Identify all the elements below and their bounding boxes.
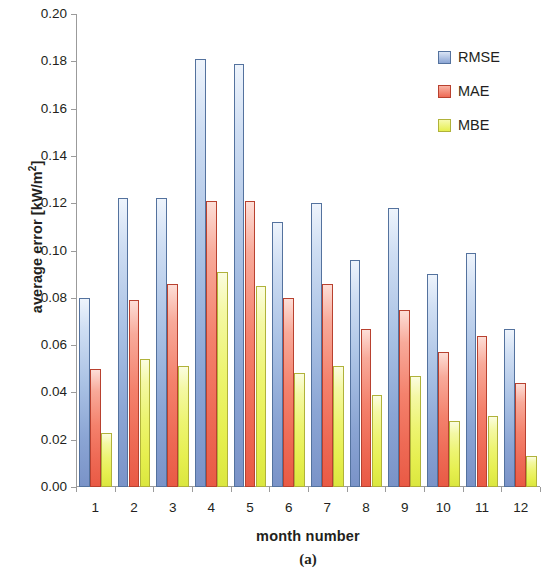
x-axis-title: month number	[76, 528, 540, 544]
legend-swatch-rmse-icon	[438, 51, 451, 64]
bar-mae-month-4	[206, 201, 217, 487]
bar-rmse-month-8	[350, 260, 361, 487]
x-tick-label: 8	[362, 501, 370, 515]
x-tick-mark	[153, 487, 154, 492]
bar-mbe-month-6	[294, 373, 305, 487]
bar-mbe-month-5	[256, 286, 267, 487]
x-tick-mark	[192, 487, 193, 492]
y-tick-label: 0.08	[41, 291, 67, 305]
legend-item-mae: MAE	[438, 74, 500, 108]
legend-swatch-mbe-icon	[438, 119, 451, 132]
bar-mae-month-3	[167, 284, 178, 487]
x-tick-label: 2	[130, 501, 138, 515]
figure-caption: (a)	[76, 551, 540, 568]
bar-mbe-month-11	[488, 416, 499, 487]
bar-mae-month-2	[129, 300, 140, 487]
x-tick-label: 7	[324, 501, 332, 515]
bar-rmse-month-6	[272, 222, 283, 487]
y-tick-mark	[71, 298, 76, 299]
y-tick-label: 0.14	[41, 149, 67, 163]
bar-mbe-month-10	[449, 421, 460, 487]
bar-mae-month-11	[477, 336, 488, 487]
bar-mbe-month-3	[178, 366, 189, 487]
y-tick-label: 0.02	[41, 433, 67, 447]
bar-rmse-month-2	[118, 198, 129, 487]
x-tick-label: 9	[401, 501, 409, 515]
y-axis-title: average error [kW/m2]	[27, 107, 45, 367]
bar-rmse-month-12	[504, 329, 515, 487]
y-axis-title-superscript: 2	[27, 165, 38, 171]
y-tick-mark	[71, 156, 76, 157]
bar-mae-month-6	[283, 298, 294, 487]
x-tick-label: 11	[475, 501, 489, 515]
x-tick-mark	[385, 487, 386, 492]
x-tick-mark	[347, 487, 348, 492]
x-tick-label: 10	[436, 501, 451, 515]
y-tick-label: 0.06	[41, 338, 67, 352]
x-tick-label: 3	[169, 501, 177, 515]
bar-mae-month-9	[399, 310, 410, 487]
y-tick-mark	[71, 392, 76, 393]
legend-item-rmse: RMSE	[438, 40, 500, 74]
bar-rmse-month-10	[427, 274, 438, 487]
x-tick-mark	[308, 487, 309, 492]
bar-mae-month-1	[90, 369, 101, 487]
y-tick-label: 0.04	[41, 386, 67, 400]
y-tick-label: 0.00	[41, 480, 67, 494]
y-tick-label: 0.16	[41, 102, 67, 116]
bar-rmse-month-7	[311, 203, 322, 487]
x-tick-mark	[76, 487, 77, 492]
x-tick-mark	[115, 487, 116, 492]
y-tick-mark	[71, 14, 76, 15]
legend-label: MAE	[458, 84, 489, 99]
bar-mae-month-8	[361, 329, 372, 487]
y-tick-mark	[71, 440, 76, 441]
y-tick-mark	[71, 345, 76, 346]
x-tick-label: 4	[208, 501, 216, 515]
bar-rmse-month-11	[466, 253, 477, 487]
y-tick-mark	[71, 203, 76, 204]
x-tick-label: 1	[92, 501, 100, 515]
y-tick-label: 0.10	[41, 244, 67, 258]
bar-mae-month-7	[322, 284, 333, 487]
legend-swatch-mae-icon	[438, 85, 451, 98]
y-axis-line	[76, 14, 77, 487]
x-tick-mark	[269, 487, 270, 492]
bar-mbe-month-2	[140, 359, 151, 487]
x-tick-label: 5	[246, 501, 254, 515]
bar-mbe-month-7	[333, 366, 344, 487]
bar-rmse-month-1	[79, 298, 90, 487]
x-tick-label: 12	[513, 501, 528, 515]
y-tick-mark	[71, 61, 76, 62]
y-tick-mark	[71, 109, 76, 110]
x-tick-mark	[424, 487, 425, 492]
bar-rmse-month-5	[234, 64, 245, 487]
x-tick-mark	[463, 487, 464, 492]
y-tick-label: 0.12	[41, 196, 67, 210]
bar-mbe-month-9	[410, 376, 421, 487]
x-tick-mark	[501, 487, 502, 492]
bar-rmse-month-3	[156, 198, 167, 487]
bar-mae-month-5	[245, 201, 256, 487]
bar-mbe-month-12	[526, 456, 537, 487]
bar-mbe-month-8	[372, 395, 383, 487]
x-tick-label: 6	[285, 501, 293, 515]
bar-mae-month-10	[438, 352, 449, 487]
legend-label: RMSE	[458, 50, 500, 65]
bar-rmse-month-4	[195, 59, 206, 487]
x-tick-mark	[540, 487, 541, 492]
y-tick-label: 0.18	[41, 55, 67, 69]
legend-item-mbe: MBE	[438, 108, 500, 142]
x-tick-mark	[231, 487, 232, 492]
chart-legend: RMSEMAEMBE	[438, 40, 500, 142]
y-tick-mark	[71, 251, 76, 252]
bar-mbe-month-1	[101, 433, 112, 487]
legend-label: MBE	[458, 118, 489, 133]
bar-rmse-month-9	[388, 208, 399, 487]
bar-mbe-month-4	[217, 272, 228, 487]
y-tick-label: 0.20	[41, 7, 67, 21]
bar-mae-month-12	[515, 383, 526, 487]
